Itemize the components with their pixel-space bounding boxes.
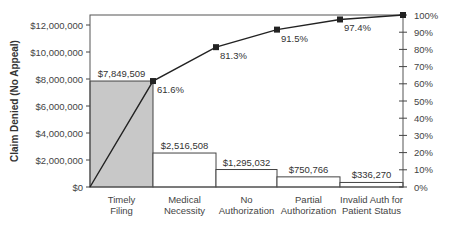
x-tick-label: Partial <box>295 194 322 205</box>
cumulative-marker <box>400 12 406 18</box>
cumulative-marker <box>337 16 343 22</box>
x-tick-label: Invalid Auth for <box>340 194 403 205</box>
bar-value-label: $1,295,032 <box>223 157 271 168</box>
pareto-chart: $0$2,000,000$4,000,000$6,000,000$8,000,0… <box>0 0 449 228</box>
x-tick-label: Medical <box>168 194 201 205</box>
x-tick-label: Necessity <box>164 205 205 216</box>
x-tick-label: Patient Status <box>342 205 401 216</box>
y2-tick-label: 80% <box>414 44 434 55</box>
y2-tick-label: 0% <box>414 182 428 193</box>
bar-value-label: $750,766 <box>289 164 329 175</box>
cumulative-label: 61.6% <box>157 84 184 95</box>
y2-tick-label: 70% <box>414 61 434 72</box>
y2-tick-label: 30% <box>414 130 434 141</box>
bar-value-label: $336,270 <box>352 169 392 180</box>
x-tick-label: No <box>240 194 252 205</box>
y2-tick-label: 10% <box>414 164 434 175</box>
bar <box>153 153 216 187</box>
y2-tick-label: 100% <box>414 10 439 21</box>
y-tick-label: $10,000,000 <box>30 47 83 58</box>
bar-value-label: $2,516,508 <box>161 140 209 151</box>
x-tick-label: Authorization <box>281 205 336 216</box>
cumulative-label: 81.3% <box>220 50 247 61</box>
y-tick-label: $2,000,000 <box>35 155 83 166</box>
x-tick-label: Authorization <box>219 205 274 216</box>
y2-tick-label: 60% <box>414 78 434 89</box>
cumulative-marker <box>274 27 280 33</box>
x-tick-label: Timely <box>108 194 136 205</box>
y-tick-label: $6,000,000 <box>35 101 83 112</box>
cumulative-marker <box>213 44 219 50</box>
y-tick-label: $8,000,000 <box>35 74 83 85</box>
y2-tick-label: 40% <box>414 113 434 124</box>
bar <box>277 177 340 187</box>
bar <box>216 170 277 187</box>
bar <box>340 182 403 187</box>
x-tick-label: Filing <box>110 205 133 216</box>
bar-value-label: $7,849,509 <box>98 68 146 79</box>
cumulative-label: 97.4% <box>344 22 371 33</box>
y-tick-label: $12,000,000 <box>30 20 83 31</box>
y2-tick-label: 20% <box>414 147 434 158</box>
y2-tick-label: 90% <box>414 27 434 38</box>
y2-tick-label: 50% <box>414 96 434 107</box>
y-tick-label: $4,000,000 <box>35 128 83 139</box>
cumulative-label: 91.5% <box>281 33 308 44</box>
y-axis-title: Claim Denied (No Appeal) <box>9 40 20 162</box>
y-tick-label: $0 <box>72 182 83 193</box>
cumulative-marker <box>150 78 156 84</box>
